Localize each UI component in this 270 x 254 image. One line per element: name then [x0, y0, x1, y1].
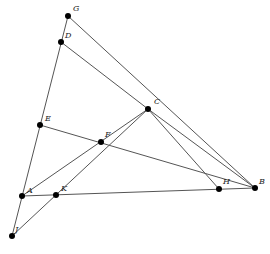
label-F: F — [104, 130, 111, 139]
point-K — [53, 192, 59, 198]
label-E: E — [44, 114, 51, 123]
point-D — [58, 39, 64, 45]
label-D: D — [64, 31, 72, 40]
segment-JC — [12, 109, 148, 236]
point-C — [145, 106, 151, 112]
label-H: H — [222, 177, 231, 186]
segment-CB — [148, 109, 255, 188]
geometry-diagram: GDCEFAKJHB — [0, 0, 270, 254]
points — [9, 13, 258, 239]
segment-CH — [148, 109, 219, 189]
point-B — [252, 185, 258, 191]
point-G — [65, 13, 71, 19]
line-segments — [12, 16, 255, 236]
label-K: K — [60, 184, 68, 193]
point-H — [216, 186, 222, 192]
segment-GB — [68, 16, 255, 188]
point-E — [37, 122, 43, 128]
label-B: B — [258, 177, 265, 186]
label-A: A — [26, 186, 33, 195]
segment-DC — [61, 42, 148, 109]
point-F — [98, 139, 104, 145]
point-A — [19, 193, 25, 199]
label-C: C — [154, 97, 160, 106]
label-G: G — [73, 4, 80, 13]
